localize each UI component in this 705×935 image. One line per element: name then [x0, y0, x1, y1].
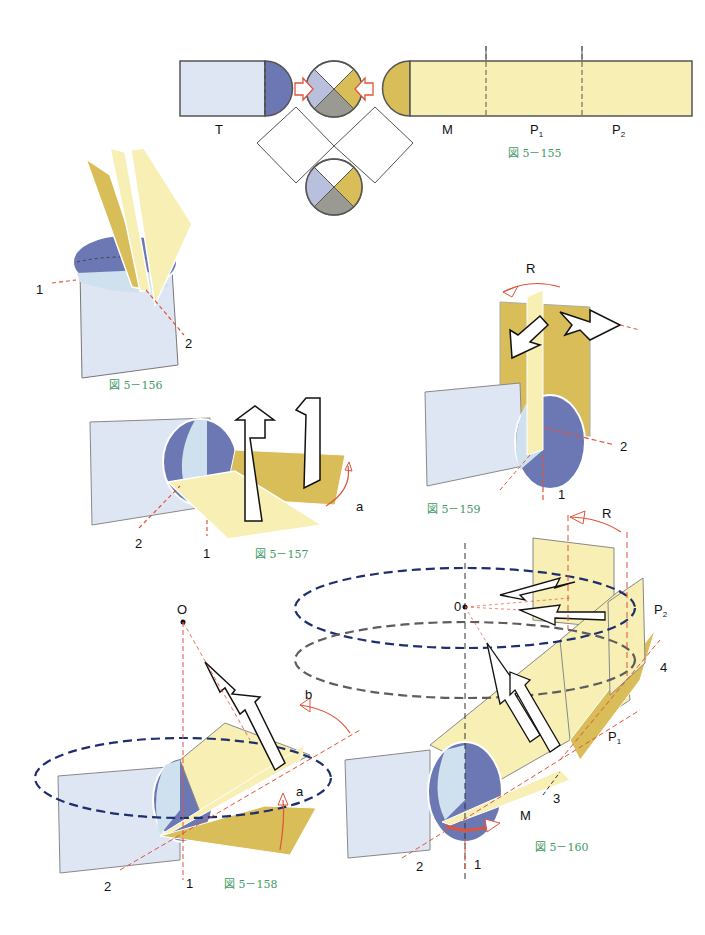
diagram-canvas: T M P1 P2 図 5－155 1 2 図 5－156 a 2 1: [0, 0, 705, 935]
axis-label-1: 1: [474, 857, 481, 872]
axis-label-2: 2: [104, 879, 111, 894]
rotation-arc-R: [503, 283, 560, 292]
label-P1: P1: [608, 729, 622, 746]
label-P2: P2: [654, 602, 668, 619]
fold-panel-upper: [180, 723, 310, 812]
axis-label-R: R: [602, 506, 611, 521]
point-label-O: O: [177, 602, 187, 617]
strip-T-cap: [265, 61, 292, 116]
figure-5-155: T M P1 P2 図 5－155: [180, 46, 692, 215]
figure-5-160: 0 R P2 4 P1 3 M 2 1 図 5－160: [295, 506, 668, 880]
figure-5-157: a 2 1 図 5－157: [90, 398, 364, 561]
caption-5-155: 図 5－155: [508, 147, 562, 160]
axis-label-2: 2: [135, 536, 142, 551]
axis-label-b: b: [305, 687, 312, 702]
base-plate: [345, 750, 430, 858]
rotation-arc-b: [300, 705, 350, 733]
caption-5-159: 図 5－159: [427, 503, 481, 516]
caption-5-158: 図 5－158: [224, 878, 278, 891]
axis-label-2: 2: [620, 439, 627, 454]
axis-label-1: 1: [186, 876, 193, 891]
label-P2: P2: [612, 122, 626, 139]
base-plate: [425, 383, 523, 486]
axis-label-1: 1: [203, 546, 210, 561]
caption-5-160: 図 5－160: [535, 841, 589, 854]
strip-M-cap: [383, 61, 410, 116]
center-disc: [306, 61, 363, 117]
figure-5-159: R 2 1 図 5－159: [425, 261, 640, 516]
axis-label-3: 3: [553, 791, 560, 806]
caption-5-157: 図 5－157: [255, 548, 309, 561]
figure-5-158: O b a 2 1 図 5－158: [35, 602, 360, 894]
axis-label-a: a: [296, 784, 304, 799]
fold-panel-center: [527, 290, 543, 455]
label-P1: P1: [530, 122, 544, 139]
label-M: M: [520, 808, 531, 823]
strip-T: [180, 61, 265, 116]
strip-MP: [410, 61, 692, 116]
axis-label-a: a: [356, 499, 364, 514]
axis-label-2: 2: [185, 336, 192, 351]
axis-label-1: 1: [36, 282, 43, 297]
caption-5-156: 図 5－156: [109, 379, 163, 392]
axis-label-1: 1: [558, 487, 565, 502]
axis-label-2: 2: [416, 859, 423, 874]
axis-label-4: 4: [660, 660, 667, 675]
figure-5-156: 1 2 図 5－156: [36, 148, 192, 392]
point-label-0: 0: [454, 599, 461, 614]
folded-net: [257, 107, 413, 215]
label-M: M: [442, 122, 453, 137]
axis-label-R: R: [526, 261, 535, 276]
label-T: T: [215, 122, 223, 137]
rotation-arc-R: [570, 517, 621, 532]
